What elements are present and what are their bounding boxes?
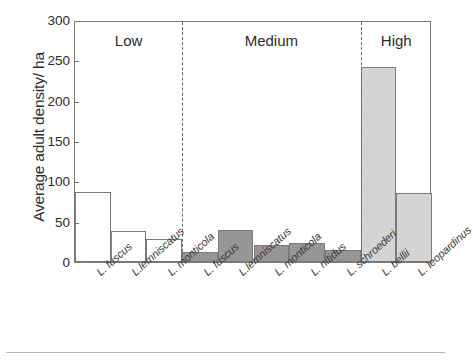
bottom-divider (6, 352, 445, 353)
bar (75, 192, 111, 262)
bar (218, 230, 254, 262)
y-tick-mark (74, 142, 79, 143)
plot-frame: LowMediumHigh (74, 21, 431, 263)
bar (325, 250, 361, 262)
plot-area: LowMediumHigh (75, 22, 430, 262)
y-tick-label: 100 (36, 175, 70, 189)
bar (111, 231, 147, 262)
group-label-low: Low (69, 32, 189, 49)
y-tick-label: 250 (36, 54, 70, 68)
y-tick-label: 50 (36, 216, 70, 230)
group-label-medium: Medium (211, 32, 331, 49)
y-tick-label: 200 (36, 95, 70, 109)
y-tick-mark (74, 102, 79, 103)
bar (254, 245, 290, 262)
bar (289, 243, 325, 262)
y-tick-label: 300 (36, 14, 70, 28)
group-divider (361, 22, 362, 262)
y-tick-mark (74, 223, 79, 224)
bar (361, 67, 397, 262)
y-tick-label: 150 (36, 135, 70, 149)
bar (146, 239, 182, 262)
y-tick-mark (74, 61, 79, 62)
y-tick-label-group: 050100150200250300 (30, 0, 70, 362)
bar (396, 193, 432, 262)
group-label-high: High (336, 32, 456, 49)
bar (182, 252, 218, 262)
y-tick-mark (74, 182, 79, 183)
group-divider (182, 22, 183, 262)
y-tick-label: 0 (36, 256, 70, 270)
